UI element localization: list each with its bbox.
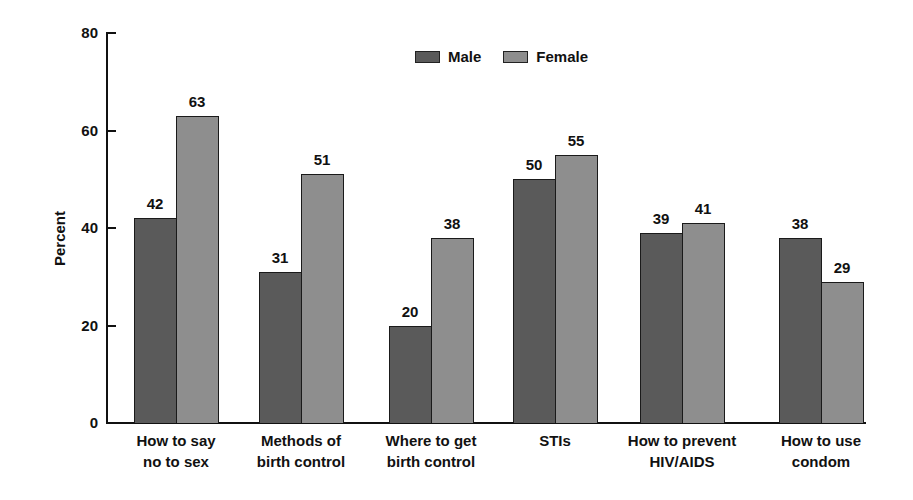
y-tick-label: 80: [58, 25, 98, 41]
x-axis-line: [106, 422, 866, 424]
bar-male: [640, 233, 683, 423]
category-label-line: condom: [751, 451, 891, 472]
category-label: How to usecondom: [751, 430, 891, 472]
bar-male: [259, 272, 302, 423]
y-tick-mark: [108, 130, 116, 132]
value-label: 51: [301, 152, 343, 168]
legend-swatch-female: [503, 51, 528, 63]
legend: Male Female: [415, 48, 610, 65]
y-tick-mark: [108, 227, 116, 229]
legend-label-male: Male: [448, 48, 481, 65]
category-label-line: Where to get: [361, 430, 501, 451]
bar-female: [682, 223, 725, 423]
category-label: STIs: [485, 430, 625, 451]
value-label: 39: [640, 211, 682, 227]
y-tick-mark: [108, 325, 116, 327]
category-label-line: How to prevent: [612, 430, 752, 451]
category-label: Methods ofbirth control: [231, 430, 371, 472]
value-label: 31: [259, 250, 301, 266]
category-label-line: HIV/AIDS: [612, 451, 752, 472]
value-label: 20: [389, 304, 431, 320]
y-tick-label: 40: [58, 220, 98, 236]
bar-female: [176, 116, 219, 423]
bar-male: [134, 218, 177, 423]
category-label: How to preventHIV/AIDS: [612, 430, 752, 472]
category-label-line: birth control: [361, 451, 501, 472]
category-label-line: no to sex: [106, 451, 246, 472]
value-label: 38: [779, 216, 821, 232]
legend-item-male: Male: [415, 48, 481, 65]
value-label: 38: [431, 216, 473, 232]
bar-chart: Percent Male Female 020406080 4263How to…: [0, 0, 913, 500]
y-axis-title: Percent: [51, 194, 68, 284]
bar-male: [513, 179, 556, 423]
value-label: 50: [513, 157, 555, 173]
y-tick-mark: [108, 32, 116, 34]
y-tick-label: 60: [58, 123, 98, 139]
bar-female: [301, 174, 344, 423]
value-label: 55: [555, 133, 597, 149]
y-tick-label: 0: [58, 415, 98, 431]
y-tick-mark: [108, 422, 116, 424]
y-tick-label: 20: [58, 318, 98, 334]
value-label: 42: [134, 196, 176, 212]
bar-male: [779, 238, 822, 423]
legend-item-female: Female: [503, 48, 588, 65]
legend-swatch-male: [415, 51, 440, 63]
value-label: 41: [682, 201, 724, 217]
bar-female: [555, 155, 598, 423]
bar-male: [389, 326, 432, 424]
bar-female: [821, 282, 864, 423]
bar-female: [431, 238, 474, 423]
category-label: How to sayno to sex: [106, 430, 246, 472]
category-label-line: Methods of: [231, 430, 371, 451]
legend-label-female: Female: [536, 48, 588, 65]
value-label: 29: [821, 260, 863, 276]
value-label: 63: [176, 94, 218, 110]
category-label-line: STIs: [485, 430, 625, 451]
category-label-line: birth control: [231, 451, 371, 472]
category-label: Where to getbirth control: [361, 430, 501, 472]
category-label-line: How to use: [751, 430, 891, 451]
category-label-line: How to say: [106, 430, 246, 451]
